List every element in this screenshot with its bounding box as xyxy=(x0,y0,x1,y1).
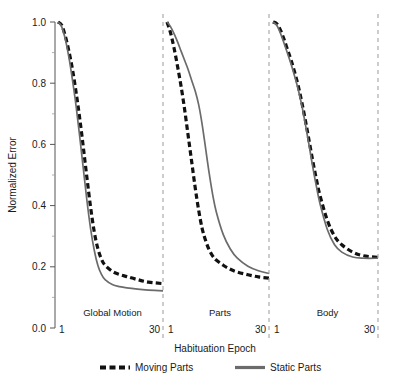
normalized-error-line-chart: 0.00.20.40.60.81.0 130Global Motion130Pa… xyxy=(0,0,394,385)
y-tick-label: 0.6 xyxy=(32,139,46,150)
x-tick-label-end: 30 xyxy=(364,324,376,335)
panel-label-body: Body xyxy=(317,307,339,318)
chart-figure: 0.00.20.40.60.81.0 130Global Motion130Pa… xyxy=(0,0,394,385)
legend-label-moving-parts: Moving Parts xyxy=(135,362,193,373)
y-tick-label: 0.4 xyxy=(32,200,46,211)
y-tick-label: 0.0 xyxy=(32,323,46,334)
y-tick-label: 0.2 xyxy=(32,261,46,272)
x-tick-label-end: 30 xyxy=(255,324,267,335)
panel-label-parts: Parts xyxy=(209,307,231,318)
y-tick-label: 0.8 xyxy=(32,78,46,89)
x-axis-title: Habituation Epoch xyxy=(174,343,256,354)
x-tick-label-start: 1 xyxy=(274,324,280,335)
y-tick-label: 1.0 xyxy=(32,17,46,28)
x-tick-label-start: 1 xyxy=(168,324,174,335)
legend-label-static-parts: Static Parts xyxy=(270,362,321,373)
x-tick-label-start: 1 xyxy=(59,324,65,335)
y-axis-title: Normalized Error xyxy=(7,137,18,213)
panel-label-global-motion: Global Motion xyxy=(83,307,142,318)
x-tick-label-end: 30 xyxy=(149,324,161,335)
